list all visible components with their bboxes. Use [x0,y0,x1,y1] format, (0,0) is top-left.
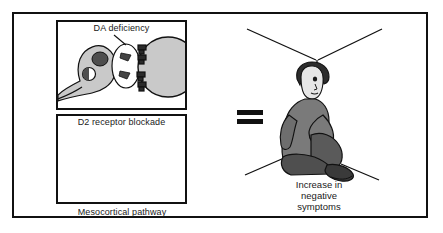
figure-root: DA deficiency D2 receptor blockade Mesoc… [0,0,443,233]
negative-symptoms-scene: Increase in negative symptoms [219,17,434,217]
nucleus-top [92,52,108,66]
eye [313,76,317,81]
synaptic-cleft-top [112,44,140,88]
mesocortical-panel-group: DA deficiency D2 receptor blockade Mesoc… [42,17,188,217]
da-deficiency-caption: DA deficiency [56,23,187,33]
negative-symptoms-caption: Increase in negative symptoms [249,179,389,212]
caption-leader-top [114,35,126,45]
d2-receptor-blockade-caption: D2 receptor blockade [54,117,189,127]
caption-line-2: negative [249,190,389,201]
d2-receptor-blockade-panel [56,114,187,204]
postsynaptic-neuron-top [138,37,198,97]
da-deficiency-artwork [58,35,198,101]
figure-outer-frame: DA deficiency D2 receptor blockade Mesoc… [12,12,428,218]
caption-line-1: Increase in [249,179,389,190]
caption-line-3: symptoms [249,201,389,212]
mesocortical-pathway-label: Mesocortical pathway [42,207,202,217]
